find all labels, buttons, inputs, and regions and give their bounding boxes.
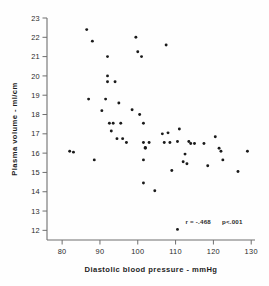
x-tick-label-100: 100	[131, 247, 144, 256]
y-tick-label-19: 19	[31, 91, 40, 100]
data-point	[168, 141, 171, 144]
data-point	[85, 28, 88, 31]
x-tick-label-80: 80	[58, 247, 67, 256]
data-point	[165, 44, 168, 47]
data-point	[125, 141, 128, 144]
data-point	[142, 141, 145, 144]
data-point	[136, 50, 139, 53]
data-point	[106, 80, 109, 83]
y-tick-label-16: 16	[31, 149, 40, 158]
data-point	[114, 80, 117, 83]
data-point	[112, 122, 115, 125]
data-point	[87, 98, 90, 101]
annotation-correlation: r = -.468	[186, 218, 212, 225]
data-point	[221, 158, 224, 161]
data-point	[144, 146, 147, 149]
data-point	[170, 169, 173, 172]
data-point	[110, 129, 113, 132]
annotation-p-value: p<.001	[222, 218, 243, 225]
data-point	[117, 101, 120, 104]
data-point	[153, 189, 156, 192]
data-point	[121, 137, 124, 140]
data-point	[140, 55, 143, 58]
data-point	[106, 55, 109, 58]
data-point	[106, 74, 109, 77]
y-axis-title: Plasma volume - ml/cm	[10, 82, 19, 175]
data-point	[108, 122, 111, 125]
x-tick-label-110: 110	[169, 247, 182, 256]
y-tick-label-17: 17	[31, 129, 40, 138]
data-point	[138, 113, 141, 116]
data-point	[72, 151, 75, 154]
data-point	[100, 109, 103, 112]
y-tick-label-20: 20	[31, 72, 40, 81]
data-point	[68, 150, 71, 153]
y-tick-label-22: 22	[31, 33, 40, 42]
y-tick-label-18: 18	[31, 110, 40, 119]
y-tick-label-14: 14	[31, 187, 40, 196]
data-point	[176, 140, 179, 143]
scatter-plot-figure: 1213141516171819202122238090100110120130…	[0, 0, 269, 286]
data-point	[91, 40, 94, 43]
data-point	[218, 147, 221, 150]
x-tick-label-90: 90	[96, 247, 105, 256]
data-point	[142, 158, 145, 161]
plot-canvas: 1213141516171819202122238090100110120130…	[0, 0, 269, 286]
data-point	[184, 153, 187, 156]
y-tick-label-21: 21	[31, 52, 40, 61]
annotations-group: r = -.468p<.001	[186, 218, 243, 225]
y-tick-label-13: 13	[31, 207, 40, 216]
x-tick-label-120: 120	[207, 247, 220, 256]
data-point	[163, 141, 166, 144]
data-point	[116, 137, 119, 140]
data-point	[193, 142, 196, 145]
data-point	[93, 158, 96, 161]
data-point	[246, 150, 249, 153]
data-point	[182, 160, 185, 163]
data-point	[142, 182, 145, 185]
data-point	[206, 164, 209, 167]
data-point	[176, 228, 179, 231]
y-tick-label-12: 12	[31, 226, 40, 235]
y-tick-label-15: 15	[31, 168, 40, 177]
data-point	[104, 98, 107, 101]
data-point	[214, 135, 217, 138]
data-point	[131, 108, 134, 111]
x-tick-label-130: 130	[245, 247, 258, 256]
data-point	[161, 132, 164, 135]
axis-titles-group: Diastolic blood pressure - mmHgPlasma vo…	[10, 82, 217, 274]
data-points-group	[68, 28, 249, 231]
data-point	[237, 170, 240, 173]
data-point	[167, 131, 170, 134]
data-point	[220, 150, 223, 153]
data-point	[203, 142, 206, 145]
data-point	[119, 122, 122, 125]
data-point	[185, 162, 188, 165]
axes-group	[47, 18, 255, 240]
data-point	[134, 36, 137, 39]
data-point	[148, 141, 151, 144]
y-tick-label-23: 23	[31, 14, 40, 23]
data-point	[178, 128, 181, 131]
data-point	[142, 122, 145, 125]
x-axis-title: Diastolic blood pressure - mmHg	[85, 265, 218, 274]
data-point	[189, 142, 192, 145]
